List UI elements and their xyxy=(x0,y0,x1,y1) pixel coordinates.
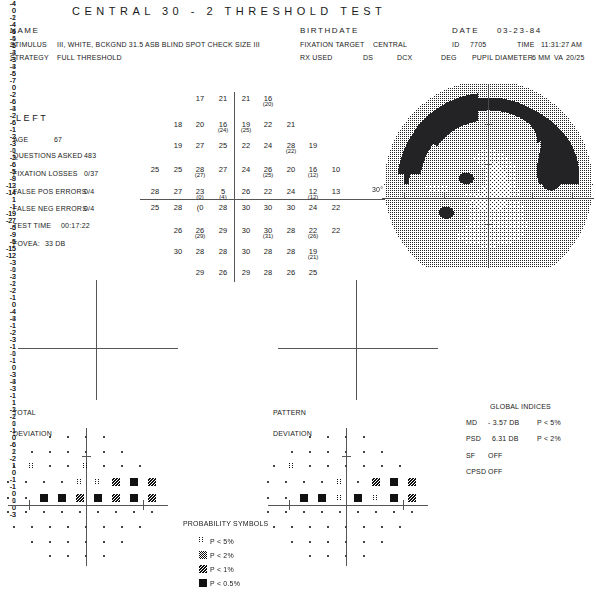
prob-symbol-normal xyxy=(339,511,341,513)
threshold-cell: 27 xyxy=(166,188,190,195)
deviation-value: -27 xyxy=(0,217,16,224)
threshold-cell: 23(0) xyxy=(188,188,212,201)
deviation-value: -13 xyxy=(0,182,16,189)
prob-symbol-normal xyxy=(7,511,9,513)
threshold-cell: 24 xyxy=(234,166,258,173)
prob-symbol-normal xyxy=(381,526,383,528)
prob-symbol-normal xyxy=(13,465,15,467)
threshold-value: 28 xyxy=(256,269,280,276)
prob-symbol-normal xyxy=(345,541,347,543)
md-label: MD xyxy=(466,419,477,426)
prob-symbol-normal xyxy=(49,526,51,528)
threshold-cell: 26 xyxy=(211,269,235,276)
prob-symbol-normal xyxy=(103,526,105,528)
time-label: TIME xyxy=(517,41,535,48)
prob-symbol-normal xyxy=(49,541,51,543)
threshold-value: 25 xyxy=(143,204,167,211)
threshold-cell: 28 xyxy=(143,188,167,195)
prob-symbol-normal xyxy=(285,481,287,483)
prob-symbol-normal xyxy=(309,555,311,557)
deviation-value: -1 xyxy=(0,322,16,329)
threshold-value: 10 xyxy=(324,166,348,173)
probability-legend-text: P < 0.5% xyxy=(210,580,240,587)
prob-symbol-normal xyxy=(375,511,377,513)
deviation-value: -5 xyxy=(0,35,16,42)
psd-probability: P < 2% xyxy=(537,435,561,442)
prob-symbol-normal xyxy=(309,451,311,453)
deviation-value: -4 xyxy=(0,308,16,315)
pattern-dev-plot-horizontal-axis xyxy=(268,505,428,506)
prob-symbol-p1 xyxy=(148,478,156,486)
threshold-cell: 28 xyxy=(279,248,303,255)
prob-symbol-normal xyxy=(399,526,401,528)
prob-symbol-normal xyxy=(273,526,275,528)
prob-symbol-normal xyxy=(103,541,105,543)
threshold-value: 22 xyxy=(324,204,348,211)
deviation-value: -4 xyxy=(0,105,16,112)
pattern-deviation-label: PATTERN xyxy=(273,409,306,416)
prob-symbol-normal xyxy=(291,451,293,453)
deviation-value: -1 xyxy=(0,126,16,133)
prob-symbol-normal xyxy=(85,541,87,543)
threshold-value: 29 xyxy=(234,269,258,276)
threshold-value: 17 xyxy=(188,95,212,102)
threshold-cell: 30 xyxy=(234,248,258,255)
pattern-deviation-label2: DEVIATION xyxy=(273,430,312,437)
prob-symbol-normal xyxy=(363,436,365,438)
prob-symbol-normal xyxy=(31,541,33,543)
threshold-retest-value: (21) xyxy=(301,255,325,261)
prob-symbol-normal xyxy=(115,511,117,513)
pattern-dev-plot-vertical-axis xyxy=(346,428,347,566)
threshold-grid-horizontal-axis xyxy=(140,199,385,200)
deviation-value: -15 xyxy=(0,245,16,252)
threshold-value: 22 xyxy=(256,188,280,195)
id-value: 7705 xyxy=(470,41,486,48)
prob-symbol-normal xyxy=(381,465,383,467)
threshold-retest-value: (25) xyxy=(256,173,280,179)
map-degree-label: 30° xyxy=(372,186,383,193)
threshold-value: (0 xyxy=(188,204,212,211)
deviation-value: -6 xyxy=(0,224,16,231)
prob-symbol-p1 xyxy=(372,478,380,486)
threshold-cell: 30 xyxy=(234,204,258,211)
deviation-value: -6 xyxy=(0,161,16,168)
deviation-value: -3 xyxy=(0,259,16,266)
prob-symbol-normal xyxy=(309,436,311,438)
threshold-value: 28 xyxy=(211,204,235,211)
deviation-value: 0 xyxy=(0,84,16,91)
threshold-cell: 21 xyxy=(234,95,258,102)
prob-symbol-normal xyxy=(291,541,293,543)
global-indices-title: GLOBAL INDICES xyxy=(490,403,551,410)
prob-symbol-normal xyxy=(25,511,27,513)
total-deviation-label: TOTAL xyxy=(13,409,36,416)
prob-symbol-normal xyxy=(285,511,287,513)
deviation-value: -6 xyxy=(0,98,16,105)
prob-symbol-normal xyxy=(327,465,329,467)
threshold-retest-value: (22) xyxy=(279,149,303,155)
prob-symbol-normal xyxy=(49,451,51,453)
prob-symbol-normal xyxy=(67,451,69,453)
threshold-retest-value: (12) xyxy=(301,195,325,201)
prob-symbol-p05 xyxy=(354,494,362,502)
total-dev-plot-horizontal-axis xyxy=(8,505,168,506)
threshold-cell: 20 xyxy=(279,166,303,173)
deviation-value: -1 xyxy=(0,483,16,490)
threshold-value: 28 xyxy=(211,248,235,255)
deviation-value: -2 xyxy=(0,329,16,336)
deviation-value: -1 xyxy=(0,147,16,154)
threshold-cell: 28 xyxy=(166,204,190,211)
prob-symbol-normal xyxy=(309,526,311,528)
threshold-value: 30 xyxy=(234,227,258,234)
prob-symbol-normal xyxy=(363,465,365,467)
prob-symbol-normal xyxy=(273,465,275,467)
threshold-cell: 16(12) xyxy=(301,166,325,179)
deviation-value: -4 xyxy=(0,49,16,56)
prob-symbol-p5 xyxy=(83,463,89,469)
prob-symbol-normal xyxy=(381,451,383,453)
threshold-value: 28 xyxy=(143,188,167,195)
prob-symbol-p05 xyxy=(300,494,308,502)
threshold-value: 24 xyxy=(234,166,258,173)
prob-symbol-p5 xyxy=(337,479,343,485)
prob-symbol-normal xyxy=(103,465,105,467)
threshold-cell: 30 xyxy=(234,227,258,234)
